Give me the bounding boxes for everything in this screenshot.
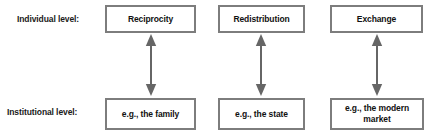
node-box-modern-market: e.g., the modern market (330, 98, 424, 130)
node-label-reciprocity: Reciprocity (125, 14, 176, 25)
node-box-redistribution: Redistribution (218, 5, 305, 33)
node-label-modern-market: e.g., the modern market (342, 103, 412, 124)
node-label-family: e.g., the family (119, 109, 182, 120)
row-label-institutional-level: Institutional level: (7, 108, 77, 117)
diagram-canvas: Individual level: Institutional level: R… (0, 0, 431, 135)
arrow-redistribution-to-state (254, 34, 268, 96)
node-label-state: e.g., the state (232, 109, 291, 120)
row-label-individual-level: Individual level: (17, 15, 79, 24)
node-box-family: e.g., the family (105, 98, 196, 130)
node-label-exchange: Exchange (354, 14, 399, 25)
arrow-reciprocity-to-family (144, 34, 158, 96)
node-label-redistribution: Redistribution (230, 14, 292, 25)
node-box-state: e.g., the state (218, 98, 305, 130)
node-box-reciprocity: Reciprocity (105, 5, 196, 33)
arrow-exchange-to-market (370, 34, 384, 96)
node-box-exchange: Exchange (330, 5, 423, 33)
